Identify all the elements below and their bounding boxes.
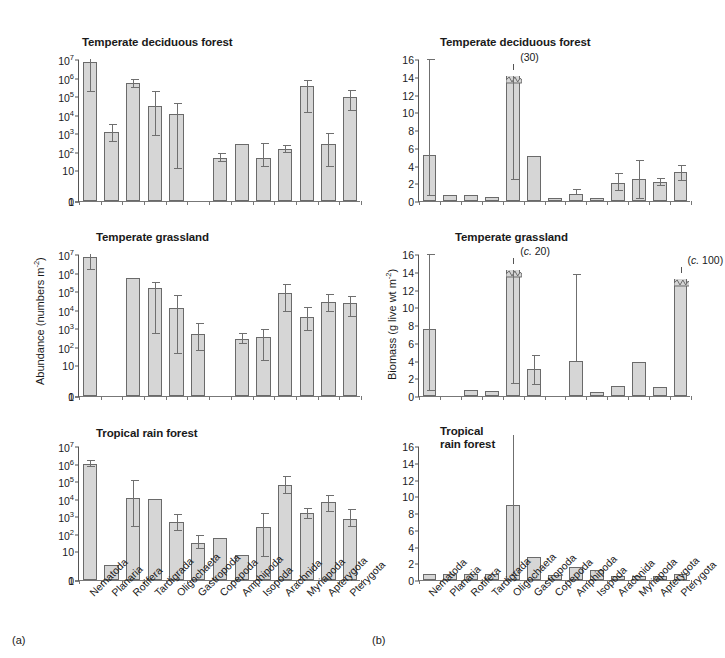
y-tick-mark <box>75 171 79 172</box>
error-cap-bottom <box>131 87 139 88</box>
bar-break-annotation: (c. 100) <box>688 254 724 266</box>
bar-b-middle-myriapoda <box>632 362 646 396</box>
error-bar <box>263 513 264 557</box>
error-bar <box>576 189 577 194</box>
y-tick-mark <box>75 255 79 256</box>
x-tick-mark <box>318 201 319 205</box>
error-bar <box>263 143 264 167</box>
error-bar <box>177 103 178 169</box>
error-cap-top <box>218 153 226 154</box>
x-tick-mark <box>461 201 462 205</box>
error-cap-top <box>532 355 540 356</box>
x-tick-mark <box>419 201 420 205</box>
error-cap-top <box>283 284 291 285</box>
y-tick-mark <box>75 134 79 135</box>
error-cap-top <box>196 323 204 324</box>
error-cap-top <box>348 90 356 91</box>
bar-b-middle-amphipoda <box>569 361 583 397</box>
y-tick-mark <box>415 166 419 167</box>
error-cap-bottom <box>239 343 247 344</box>
plot-area-a-top: 0110102103104105106107 <box>78 60 360 202</box>
error-bar <box>90 460 91 467</box>
x-tick-mark <box>101 201 102 205</box>
error-cap-top <box>615 173 623 174</box>
bar-break-dashline <box>513 258 514 264</box>
error-cap-bottom <box>109 141 117 142</box>
error-bar <box>220 153 221 162</box>
error-cap-top <box>261 513 269 514</box>
y-tick-mark <box>75 499 79 500</box>
x-tick-mark <box>361 396 362 400</box>
x-tick-mark <box>122 201 123 205</box>
x-tick-mark <box>253 201 254 205</box>
y-tick-mark <box>415 131 419 132</box>
y-tick-mark <box>415 95 419 96</box>
error-bar <box>681 165 682 181</box>
plot-area-b-middle: 0246810121416(c. 20)(c. 100) <box>418 255 690 397</box>
x-tick-mark <box>79 396 80 400</box>
x-tick-mark <box>628 201 629 205</box>
error-cap-bottom <box>511 383 519 384</box>
error-cap-bottom <box>348 316 356 317</box>
y-tick-mark <box>415 497 419 498</box>
error-cap-top <box>657 178 665 179</box>
error-cap-top <box>326 294 334 295</box>
error-bar <box>90 59 91 92</box>
error-cap-top <box>636 160 644 161</box>
y-tick-mark <box>75 115 79 116</box>
error-cap-top <box>283 145 291 146</box>
y-axis-title-biomass: Biomass (g live wt m-2) <box>384 269 398 380</box>
x-tick-mark <box>628 396 629 400</box>
bar-a-top-amphipoda <box>235 144 249 201</box>
x-tick-mark <box>649 201 650 205</box>
x-tick-mark <box>565 396 566 400</box>
bar-a-middle-apterygota <box>321 302 335 396</box>
error-cap-bottom <box>283 152 291 153</box>
error-cap-top <box>427 59 435 60</box>
x-tick-mark <box>79 580 80 584</box>
x-tick-mark <box>419 396 420 400</box>
error-cap-bottom <box>87 466 95 467</box>
error-cap-top <box>152 91 160 92</box>
error-bar <box>285 284 286 313</box>
plot-area-a-middle: 0110102103104105106107 <box>78 255 360 397</box>
x-tick-mark <box>503 201 504 205</box>
error-cap-bottom <box>615 190 623 191</box>
error-cap-bottom <box>87 269 95 270</box>
error-cap-top <box>196 535 204 536</box>
y-tick-mark <box>75 464 79 465</box>
panel-title-b-middle: Temperate grassland <box>455 231 568 244</box>
error-cap-bottom <box>348 526 356 527</box>
x-tick-mark <box>649 396 650 400</box>
x-tick-mark <box>231 201 232 205</box>
y-tick-mark <box>75 517 79 518</box>
error-bar <box>328 294 329 313</box>
figure-root: Temperate deciduous forest01101021031041… <box>0 0 725 658</box>
bar-break-dashline <box>681 267 682 273</box>
error-cap-top <box>304 80 312 81</box>
error-bar <box>177 295 178 354</box>
x-tick-mark <box>231 396 232 400</box>
error-cap-bottom <box>283 311 291 312</box>
x-tick-mark <box>670 201 671 205</box>
error-cap-top <box>174 295 182 296</box>
error-bar <box>285 145 286 152</box>
y-tick-mark <box>415 184 419 185</box>
bar-a-middle-amphipoda <box>235 339 249 396</box>
x-tick-mark <box>440 396 441 400</box>
bar-b-middle-pterygota <box>674 279 688 396</box>
x-tick-mark <box>209 201 210 205</box>
error-cap-bottom <box>348 110 356 111</box>
x-tick-mark <box>482 201 483 205</box>
error-bar <box>90 254 91 270</box>
bar-a-bottom-nematoda <box>83 464 97 580</box>
bar-break-annotation: (c. 20) <box>520 245 550 257</box>
error-cap-top <box>678 165 686 166</box>
y-tick-mark <box>75 366 79 367</box>
panel-title-a-top: Temperate deciduous forest <box>82 36 233 49</box>
y-tick-mark <box>415 60 419 61</box>
bar-b-top-amphipoda <box>569 194 583 201</box>
error-cap-top <box>427 254 435 255</box>
bar-b-top-tardigrada <box>485 197 499 201</box>
x-tick-mark <box>166 396 167 400</box>
